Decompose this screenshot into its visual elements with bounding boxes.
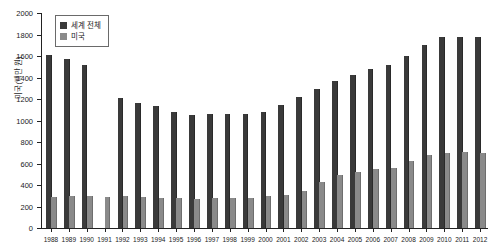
x-axis-tick-label: 1997 [205, 236, 219, 243]
x-axis-tick-mark [176, 228, 177, 232]
x-axis-tick-label: 2004 [330, 236, 344, 243]
y-axis-tick-label: 0 [3, 224, 33, 233]
x-axis-tick-label: 1999 [240, 236, 254, 243]
bar-group [153, 13, 163, 228]
x-axis-tick-mark [140, 228, 141, 232]
bar-group [386, 13, 396, 228]
x-axis-tick-mark [105, 228, 106, 232]
bar-usa [194, 199, 200, 228]
x-axis-tick-mark [158, 228, 159, 232]
bar-group [261, 13, 271, 228]
bar-group [207, 13, 217, 228]
y-axis-tick-mark [37, 185, 41, 186]
y-axis-tick-label: 200 [3, 202, 33, 211]
bar-group [422, 13, 432, 228]
bar-usa [373, 169, 379, 228]
legend-item-usa: 미국 [60, 31, 101, 42]
x-axis-tick-label: 2003 [312, 236, 326, 243]
x-axis-tick-mark [337, 228, 338, 232]
bar-usa [427, 155, 433, 228]
x-axis-tick-label: 2011 [455, 236, 469, 243]
x-axis-tick-label: 2010 [437, 236, 451, 243]
bar-usa [105, 197, 111, 228]
x-axis-tick-mark [230, 228, 231, 232]
bar-usa [480, 153, 486, 228]
x-axis-tick-mark [194, 228, 195, 232]
x-axis-tick-mark [69, 228, 70, 232]
x-axis-tick-mark [51, 228, 52, 232]
y-axis-tick-mark [37, 164, 41, 165]
x-axis-tick-mark [212, 228, 213, 232]
legend-swatch-icon [60, 22, 67, 29]
bar-usa [176, 198, 182, 228]
bar-group [135, 13, 145, 228]
x-axis-tick-mark [122, 228, 123, 232]
y-axis-tick-mark [37, 121, 41, 122]
y-axis-tick-mark [37, 99, 41, 100]
bar-usa [87, 196, 93, 228]
x-axis-tick-label: 1988 [44, 236, 58, 243]
legend-item-world: 세계 전체 [60, 20, 101, 31]
x-axis-tick-mark [373, 228, 374, 232]
x-axis-tick-mark [266, 228, 267, 232]
bar-usa [123, 196, 129, 228]
x-axis-tick-label: 2001 [276, 236, 290, 243]
bar-group [475, 13, 485, 228]
y-axis-tick-label: 1000 [3, 116, 33, 125]
x-axis-tick-label: 2005 [348, 236, 362, 243]
x-axis-tick-mark [319, 228, 320, 232]
y-axis-tick-mark [37, 13, 41, 14]
bar-usa [319, 182, 325, 228]
y-axis-tick-label: 1600 [3, 52, 33, 61]
bar-usa [462, 152, 468, 228]
x-axis-tick-mark [87, 228, 88, 232]
bar-usa [337, 175, 343, 228]
bar-group [368, 13, 378, 228]
x-axis-tick-label: 2008 [401, 236, 415, 243]
y-axis-tick-label: 2000 [3, 9, 33, 18]
bar-group [171, 13, 181, 228]
bar-usa [391, 168, 397, 228]
chart-legend: 세계 전체 미국 [55, 15, 109, 47]
x-axis-tick-label: 1992 [115, 236, 129, 243]
bar-group [404, 13, 414, 228]
bar-group [225, 13, 235, 228]
bar-group [278, 13, 288, 228]
x-axis-tick-mark [355, 228, 356, 232]
bar-group [314, 13, 324, 228]
y-axis-tick-label: 800 [3, 138, 33, 147]
x-axis-tick-label: 2000 [258, 236, 272, 243]
bar-group [118, 13, 128, 228]
x-axis-tick-label: 2002 [294, 236, 308, 243]
y-axis-tick-label: 400 [3, 181, 33, 190]
x-axis-tick-mark [283, 228, 284, 232]
x-axis-tick-mark [426, 228, 427, 232]
bar-usa [51, 197, 57, 228]
y-axis-tick-mark [37, 35, 41, 36]
bar-usa [69, 196, 75, 228]
bar-group [350, 13, 360, 228]
x-axis-tick-label: 1994 [151, 236, 165, 243]
bar-group [332, 13, 342, 228]
x-axis-tick-mark [444, 228, 445, 232]
x-axis-tick-label: 1995 [169, 236, 183, 243]
bar-usa [248, 198, 254, 228]
legend-label-world: 세계 전체 [71, 21, 101, 30]
legend-swatch-icon [60, 33, 67, 40]
x-axis-tick-mark [480, 228, 481, 232]
x-axis-tick-label: 1990 [79, 236, 93, 243]
bar-chart: 미국(백만 원) 0200400600800100012001400160018… [0, 0, 494, 252]
bar-usa [302, 191, 308, 228]
y-axis-tick-label: 1200 [3, 95, 33, 104]
bar-usa [141, 197, 147, 228]
x-axis-tick-mark [391, 228, 392, 232]
bar-group [296, 13, 306, 228]
x-axis-tick-label: 2007 [383, 236, 397, 243]
legend-label-usa: 미국 [71, 32, 85, 41]
bar-group [189, 13, 199, 228]
y-axis-tick-mark [37, 142, 41, 143]
x-axis-tick-label: 1989 [62, 236, 76, 243]
x-axis-line [41, 228, 488, 229]
y-axis-tick-mark [37, 228, 41, 229]
y-axis-tick-label: 600 [3, 159, 33, 168]
